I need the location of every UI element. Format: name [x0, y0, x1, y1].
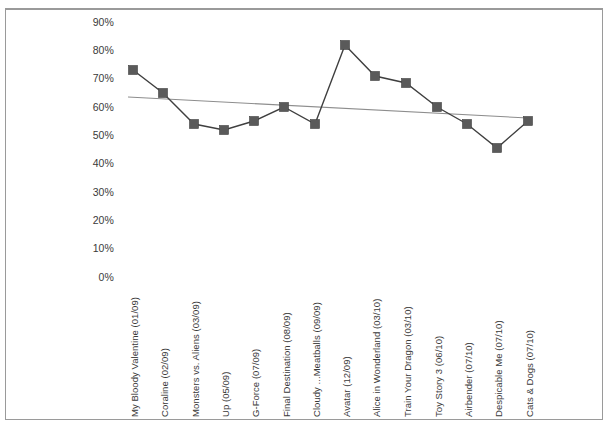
- data-point-marker: [371, 72, 380, 81]
- data-point-marker: [159, 89, 168, 98]
- data-point-marker: [250, 117, 259, 126]
- x-tick-label-12: Despicable Me (07/10): [493, 320, 504, 417]
- data-point-marker: [433, 103, 442, 112]
- data-point-marker: [129, 66, 138, 75]
- x-tick-label-11: Airbender (07/10): [463, 342, 474, 417]
- x-tick-label-8: Alice in Wonderland (03/10): [371, 299, 382, 417]
- data-point-marker: [220, 126, 229, 135]
- data-point-marker: [190, 120, 199, 129]
- x-tick-label-6: Cloudy ...Meatballs (09/09): [311, 302, 322, 417]
- data-point-marker: [280, 103, 289, 112]
- x-tick-label-0: My Bloody Valentine (01/09): [129, 297, 140, 417]
- data-point-marker: [463, 120, 472, 129]
- chart-svg: [0, 0, 611, 425]
- x-tick-label-4: G-Force (07/09): [250, 349, 261, 417]
- series-markers: [129, 41, 533, 153]
- data-point-marker: [524, 117, 533, 126]
- trendline-path: [128, 97, 528, 118]
- x-tick-label-5: Final Destination (08/09): [281, 312, 292, 417]
- data-point-marker: [402, 79, 411, 88]
- chart-plot-area: 90% 80% 70% 60% 50% 40% 30% 20% 10% 0% M…: [0, 0, 611, 425]
- data-point-marker: [341, 41, 350, 50]
- data-point-marker: [493, 144, 502, 153]
- x-tick-label-2: Monsters vs. Aliens (03/09): [190, 301, 201, 417]
- x-tick-label-1: Coraline (02/09): [159, 348, 170, 417]
- x-tick-label-10: Toy Story 3 (06/10): [433, 336, 444, 417]
- x-tick-label-9: Train Your Dragon (03/10): [402, 306, 413, 417]
- x-tick-label-7: Avatar (12/09): [341, 356, 352, 417]
- x-tick-label-13: Cats & Dogs (07/10): [524, 330, 535, 417]
- x-tick-label-3: Up (05/09): [220, 372, 231, 417]
- data-point-marker: [311, 120, 320, 129]
- series-line-path: [133, 45, 528, 148]
